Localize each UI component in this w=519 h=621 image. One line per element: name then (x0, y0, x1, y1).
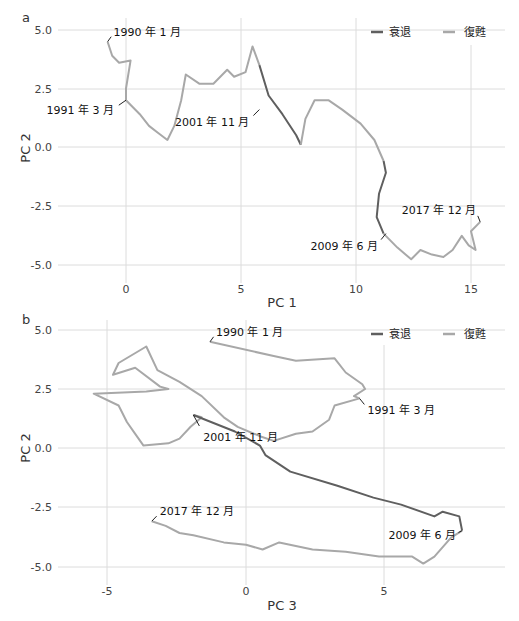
chart-svg-b: 5.0 2.5 0.0 -2.5 -5.0 -5 0 5 PC 3 PC 2 1… (0, 310, 519, 621)
gridlines (58, 18, 505, 283)
annotation-label: 2009 年 6 月 (310, 239, 377, 253)
x-tick: 5 (238, 283, 245, 296)
annotation-label: 1990 年 1 月 (216, 325, 283, 339)
y-axis-title: PC 2 (18, 433, 33, 462)
y-tick: 5.0 (35, 24, 53, 37)
y-tick: 0.0 (35, 442, 53, 455)
recession-line (377, 161, 386, 234)
annotation-leader (478, 216, 480, 222)
legend: 衰退 復甦 (371, 327, 486, 341)
recovery-line (152, 521, 462, 563)
recovery-line (384, 222, 481, 259)
x-axis-title: PC 1 (267, 295, 296, 310)
chart-panel-a: a 5.0 2.5 0.0 -2.5 -5.0 0 5 10 15 PC 1 P… (0, 0, 519, 310)
annotation-label: 1990 年 1 月 (114, 25, 181, 39)
annotation-leader (253, 110, 259, 116)
x-tick: 0 (123, 283, 130, 296)
annotation-leader (360, 398, 365, 404)
annotation-label: 2001 年 11 月 (203, 430, 277, 444)
recovery-line (210, 342, 365, 399)
x-axis-title: PC 3 (267, 598, 296, 613)
x-tick: 15 (464, 283, 478, 296)
annotation-leader (210, 337, 214, 342)
y-tick: -5.0 (31, 259, 52, 272)
recovery-line (108, 42, 131, 100)
y-axis-ticks: 5.0 2.5 0.0 -2.5 -5.0 (31, 24, 52, 272)
legend-label-recovery: 復甦 (464, 26, 486, 39)
annotation-leader (108, 37, 112, 42)
legend-label-recession: 衰退 (389, 25, 411, 39)
y-tick: 2.5 (35, 383, 53, 396)
annotations: 1990 年 1 月1991 年 3 月2001 年 11 月2009 年 6 … (47, 25, 481, 253)
y-tick: 2.5 (35, 83, 53, 96)
annotation-label: 2009 年 6 月 (389, 528, 456, 542)
y-tick: 0.0 (35, 141, 53, 154)
x-tick: -5 (102, 585, 113, 598)
x-axis-ticks: -5 0 5 (102, 585, 388, 598)
annotation-label: 2017 年 12 月 (160, 504, 234, 518)
series-lines (108, 42, 481, 260)
x-axis-ticks: 0 5 10 15 (123, 283, 479, 296)
annotation-leader (119, 100, 126, 105)
y-tick: -2.5 (31, 200, 52, 213)
legend-label-recession: 衰退 (389, 327, 411, 341)
y-axis-ticks: 5.0 2.5 0.0 -2.5 -5.0 (31, 324, 52, 574)
annotation-label: 2001 年 11 月 (175, 115, 249, 129)
annotation-leader (152, 516, 157, 521)
x-tick: 0 (243, 585, 250, 598)
recovery-line (301, 100, 384, 161)
y-tick: -5.0 (31, 561, 52, 574)
recession-line (259, 65, 300, 145)
annotation-label: 2017 年 12 月 (402, 203, 476, 217)
chart-svg-a: 5.0 2.5 0.0 -2.5 -5.0 0 5 10 15 PC 1 PC … (0, 0, 519, 310)
legend: 衰退 復甦 (371, 25, 486, 39)
y-tick: 5.0 (35, 324, 53, 337)
legend-label-recovery: 復甦 (464, 328, 486, 341)
x-tick: 5 (381, 585, 388, 598)
y-tick: -2.5 (31, 501, 52, 514)
chart-panel-b: b 5.0 2.5 0.0 -2.5 -5.0 -5 0 5 PC 3 PC 2… (0, 310, 519, 621)
annotation-label: 1991 年 3 月 (368, 403, 435, 417)
y-axis-title: PC 2 (18, 133, 33, 162)
annotation-label: 1991 年 3 月 (47, 103, 114, 117)
x-tick: 10 (349, 283, 363, 296)
